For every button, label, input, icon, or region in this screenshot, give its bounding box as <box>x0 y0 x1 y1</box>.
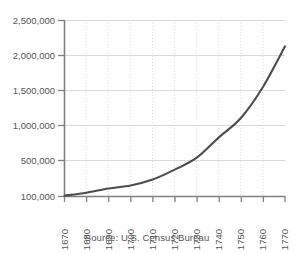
ytick-label: 1,000,000 <box>13 120 55 131</box>
y-axis-tick-labels: 2,500,000 2,000,000 1,500,000 1,000,000 … <box>13 15 55 202</box>
ytick-label: 2,500,000 <box>13 15 55 26</box>
ytick-label: 500,000 <box>21 155 55 166</box>
ytick-label: 100,000 <box>21 191 55 202</box>
y-axis-ticks <box>58 21 64 197</box>
ytick-label: 2,000,000 <box>13 50 55 61</box>
population-growth-chart: 2,500,000 2,000,000 1,500,000 1,000,000 … <box>0 0 294 253</box>
chart-canvas: 2,500,000 2,000,000 1,500,000 1,000,000 … <box>0 0 294 253</box>
source-caption: Source: U.S. Census Bureau <box>0 232 294 243</box>
ytick-label: 1,500,000 <box>13 85 55 96</box>
